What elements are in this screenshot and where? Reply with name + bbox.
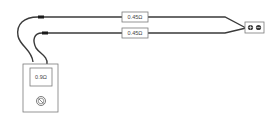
wire-bottom (148, 28, 246, 33)
resistor-top-label: 0.45Ω (128, 14, 143, 20)
ohmmeter: 0.9Ω (23, 64, 58, 112)
resistor-top: 0.45Ω (122, 12, 148, 22)
circuit-diagram: 0.45Ω 0.45Ω 0.9Ω (0, 0, 279, 120)
meter-reading: 0.9Ω (35, 74, 47, 80)
wire-top (148, 17, 246, 28)
probe-tip-top (38, 16, 44, 19)
resistor-bottom-label: 0.45Ω (128, 30, 143, 36)
resistor-bottom: 0.45Ω (122, 28, 148, 38)
terminal-block (245, 22, 264, 33)
wire-bottom-lead (34, 33, 47, 64)
dial-icon[interactable] (37, 97, 46, 106)
wire-top-lead (18, 17, 38, 62)
probe-tip-bottom (42, 32, 48, 35)
